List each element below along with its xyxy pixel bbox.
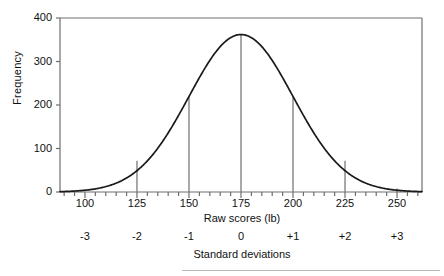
x-tick-label-175: 175 <box>221 198 261 209</box>
x-tick-label-100: 100 <box>65 198 105 209</box>
sd-tick-label-0: 0 <box>221 231 261 242</box>
sd-tick-label-+2: +2 <box>325 231 365 242</box>
footer-divider <box>182 270 440 271</box>
sd-tick-label--1: -1 <box>169 231 209 242</box>
sd-tick-label-+3: +3 <box>377 231 417 242</box>
x-tick-label-225: 225 <box>325 198 365 209</box>
x-tick-label-250: 250 <box>377 198 417 209</box>
x-axis-title: Raw scores (lb) <box>152 212 332 224</box>
x-tick-label-150: 150 <box>169 198 209 209</box>
normal-distribution-chart: Frequency 0100200300400 1001251501752002… <box>0 0 444 276</box>
sd-tick-label--3: -3 <box>65 231 105 242</box>
y-tick-label-300: 300 <box>18 56 52 67</box>
y-tick-label-400: 400 <box>18 12 52 23</box>
y-tick-label-0: 0 <box>18 186 52 197</box>
standard-deviation-marker-lines <box>137 35 397 192</box>
y-tick-label-200: 200 <box>18 99 52 110</box>
y-tick-label-100: 100 <box>18 143 52 154</box>
sd-tick-label-+1: +1 <box>273 231 313 242</box>
x-tick-label-200: 200 <box>273 198 313 209</box>
x-tick-label-125: 125 <box>117 198 157 209</box>
sd-tick-label--2: -2 <box>117 231 157 242</box>
secondary-x-axis-title: Standard deviations <box>152 248 332 260</box>
